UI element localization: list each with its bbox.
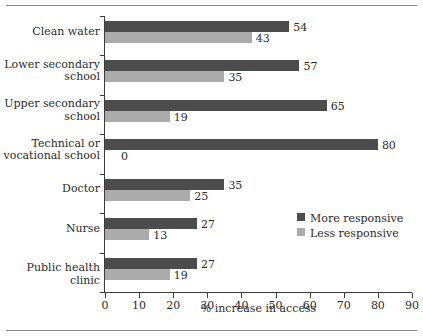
category-label-2: Upper secondary school	[0, 98, 108, 123]
bar-value-more-responsive-3: 80	[382, 140, 396, 151]
bar-more-responsive-6	[105, 258, 197, 269]
x-tick-10	[139, 293, 140, 298]
bar-value-less-responsive-1: 35	[228, 72, 242, 83]
x-axis-title: % increase in access	[105, 302, 412, 315]
bar-more-responsive-5	[105, 218, 197, 229]
x-axis-line	[104, 292, 412, 293]
bar-less-responsive-2	[105, 111, 170, 122]
y-tick-4	[100, 174, 105, 175]
bar-value-more-responsive-0: 54	[293, 22, 307, 33]
top-divider-rule	[6, 5, 417, 6]
legend-label-0: More responsive	[310, 212, 403, 225]
x-tick-0	[105, 293, 106, 298]
bar-more-responsive-4	[105, 179, 224, 190]
y-tick-0	[100, 16, 105, 17]
legend-label-1: Less responsive	[310, 227, 399, 240]
bar-value-more-responsive-2: 65	[331, 101, 345, 112]
y-tick-2	[100, 95, 105, 96]
y-tick-3	[100, 134, 105, 135]
bar-less-responsive-1	[105, 71, 224, 82]
x-tick-90	[412, 293, 413, 298]
bar-less-responsive-0	[105, 32, 252, 43]
x-tick-40	[241, 293, 242, 298]
bar-value-less-responsive-2: 19	[174, 112, 188, 123]
category-label-4: Doctor	[0, 183, 108, 196]
x-tick-60	[310, 293, 311, 298]
legend-item-1: Less responsive	[297, 225, 417, 240]
x-tick-20	[173, 293, 174, 298]
category-label-0: Clean water	[0, 26, 108, 39]
category-label-3: Technical or vocational school	[0, 138, 108, 163]
bar-value-less-responsive-3: 0	[121, 151, 128, 162]
category-axis-labels: Clean waterLower secondary schoolUpper s…	[0, 16, 100, 292]
y-axis-line	[104, 16, 105, 292]
bar-value-less-responsive-6: 19	[174, 270, 188, 281]
bar-less-responsive-4	[105, 190, 190, 201]
legend-swatch-icon-1	[297, 228, 305, 236]
bar-value-more-responsive-5: 27	[201, 219, 215, 230]
bar-value-more-responsive-1: 57	[303, 61, 317, 72]
category-label-6: Public health clinic	[0, 262, 108, 287]
bar-value-less-responsive-0: 43	[256, 33, 270, 44]
bar-value-more-responsive-6: 27	[201, 259, 215, 270]
x-tick-80	[378, 293, 379, 298]
bar-more-responsive-1	[105, 60, 299, 71]
bar-more-responsive-3	[105, 139, 378, 150]
chart-legend: More responsiveLess responsive	[297, 210, 417, 240]
y-tick-5	[100, 213, 105, 214]
bottom-divider-rule	[6, 330, 417, 331]
bar-less-responsive-5	[105, 229, 149, 240]
x-tick-50	[276, 293, 277, 298]
legend-swatch-icon-0	[297, 213, 305, 221]
plot-area: 0102030405060708090 54576580352727433519…	[105, 16, 412, 292]
y-tick-6	[100, 253, 105, 254]
bar-value-more-responsive-4: 35	[228, 180, 242, 191]
category-label-1: Lower secondary school	[0, 59, 108, 84]
bar-more-responsive-2	[105, 100, 327, 111]
chart-figure: Clean waterLower secondary schoolUpper s…	[0, 0, 423, 336]
x-tick-30	[207, 293, 208, 298]
bar-value-less-responsive-4: 25	[194, 191, 208, 202]
bar-less-responsive-6	[105, 269, 170, 280]
bar-more-responsive-0	[105, 21, 289, 32]
legend-item-0: More responsive	[297, 210, 417, 225]
y-tick-1	[100, 55, 105, 56]
category-label-5: Nurse	[0, 223, 108, 236]
x-tick-70	[344, 293, 345, 298]
bar-value-less-responsive-5: 13	[153, 230, 167, 241]
